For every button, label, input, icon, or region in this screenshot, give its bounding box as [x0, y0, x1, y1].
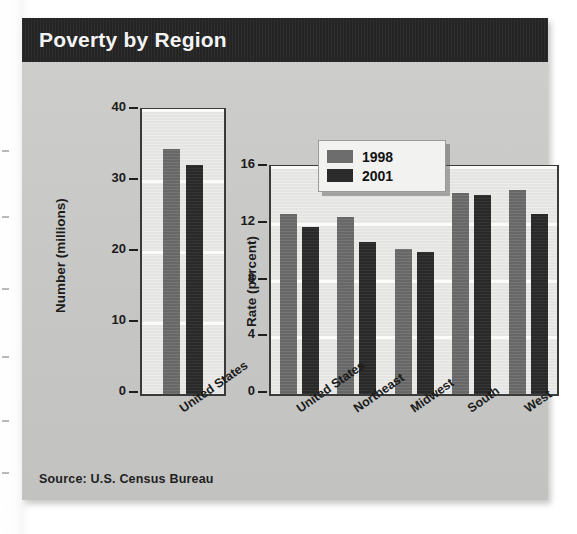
legend-item-1998: 1998: [327, 147, 437, 166]
y-axis-tick-mark: [258, 391, 267, 393]
bar-1998-south: [452, 193, 469, 394]
plot-area-number: [140, 108, 226, 396]
plot-area-rate: [269, 165, 559, 396]
chart-legend: 1998 2001: [318, 140, 446, 192]
y-axis-tick-label: 30: [84, 170, 126, 185]
y-axis-tick-label: 20: [84, 241, 126, 256]
bar-1998-united-states: [163, 149, 180, 394]
y-axis-tick-mark: [129, 249, 138, 251]
legend-swatch-2001-icon: [327, 169, 353, 182]
y-axis-tick-mark: [129, 107, 138, 109]
y-axis-tick-label: 4: [213, 326, 255, 341]
y-axis-tick-label: 0: [213, 383, 255, 398]
chart-rate-percent: Rate (percent) 0481216 United StatesNort…: [222, 62, 548, 500]
y-axis-tick-label: 0: [84, 383, 126, 398]
bar-1998-united-states: [280, 214, 297, 394]
y-axis-tick-mark: [258, 334, 267, 336]
gridline: [142, 180, 224, 183]
y-axis-tick-mark: [129, 320, 138, 322]
y-axis-tick-mark: [129, 178, 138, 180]
legend-swatch-1998-icon: [327, 150, 353, 163]
y-axis-tick-label: 8: [213, 270, 255, 285]
page-background: Poverty by Region Number (millions) 0102…: [0, 0, 577, 534]
figure-body: Number (millions) 010203040 United State…: [22, 62, 548, 500]
gridline: [142, 251, 224, 254]
bar-2001-united-states: [302, 227, 319, 394]
legend-label-2001: 2001: [362, 168, 393, 184]
source-note: Source: U.S. Census Bureau: [39, 472, 214, 486]
y-axis-tick-label: 40: [84, 99, 126, 114]
page-title: Poverty by Region: [39, 28, 227, 52]
gridline: [142, 109, 224, 112]
bar-2001-united-states: [186, 165, 203, 394]
bar-2001-south: [474, 195, 491, 394]
y-axis-tick-mark: [258, 221, 267, 223]
y-axis-title-number: Number (millions): [53, 196, 68, 316]
y-axis-tick-label: 10: [84, 312, 126, 327]
chart-number-millions: Number (millions) 010203040 United State…: [22, 62, 222, 500]
figure-header-bar: Poverty by Region: [22, 18, 548, 62]
legend-label-1998: 1998: [362, 149, 393, 165]
gridline: [142, 322, 224, 325]
y-axis-tick-mark: [258, 164, 267, 166]
y-axis-tick-mark: [129, 391, 138, 393]
legend-item-2001: 2001: [327, 166, 437, 185]
scan-edge-marks: [0, 120, 12, 500]
y-axis-tick-label: 16: [213, 156, 255, 171]
bar-1998-west: [509, 190, 526, 394]
y-axis-tick-label: 12: [213, 213, 255, 228]
bar-2001-west: [531, 214, 548, 394]
y-axis-tick-mark: [258, 278, 267, 280]
bar-2001-midwest: [417, 252, 434, 394]
figure-card: Poverty by Region Number (millions) 0102…: [22, 18, 548, 500]
